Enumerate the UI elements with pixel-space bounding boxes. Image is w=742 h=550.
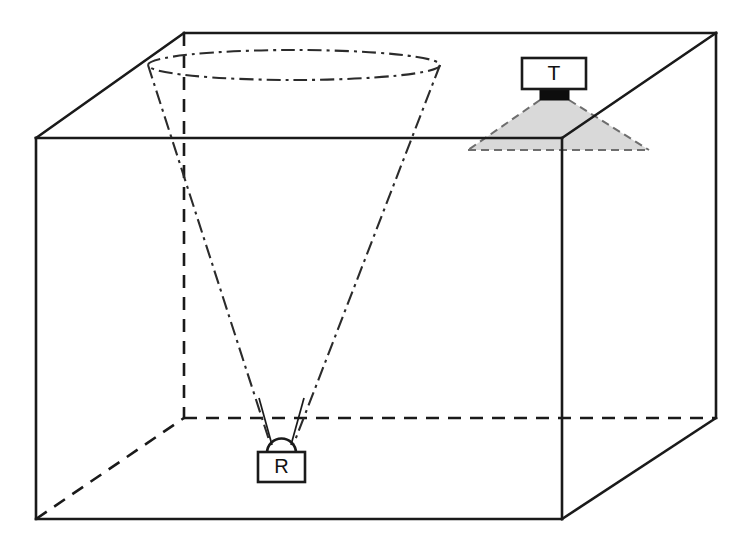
tank-edge-bottom-left-diagonal [36, 418, 184, 519]
receiver-device[interactable]: R [258, 439, 305, 483]
transmitter-label: T [548, 61, 561, 84]
tank-visible-edges [36, 33, 716, 519]
ray-left [259, 398, 272, 445]
cone-edge-right [294, 65, 440, 443]
tank-scene-svg: T R [0, 0, 742, 550]
transmitter-beam [468, 100, 649, 150]
transmitter-beam-fill [468, 100, 649, 150]
cone-edge-left [148, 65, 270, 443]
diagram-root: T R [0, 0, 742, 550]
transmitter-device[interactable]: T [522, 58, 586, 100]
receiver-acceptance-cone [148, 50, 440, 443]
tank-hidden-edges [36, 33, 716, 519]
receiver-label: R [274, 455, 288, 477]
cone-top-ellipse [148, 50, 440, 80]
tank-edge-bottom-right-diagonal [562, 418, 716, 519]
tank-edge-top-left-diagonal [36, 33, 184, 138]
